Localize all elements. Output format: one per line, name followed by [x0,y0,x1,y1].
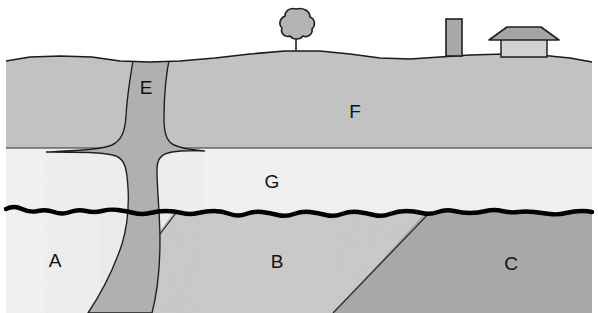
cropped-caption-text [0,0,598,2]
unit-f-body [0,40,598,160]
cross-section-diagram: A B C E F G [0,0,598,313]
tower-body [446,19,462,56]
unit-label-b: B [271,251,284,272]
tree-icon [280,8,315,52]
tower-icon [446,19,462,56]
unit-label-e: E [140,77,153,98]
unit-label-a: A [49,250,62,271]
tree-crown [280,8,315,39]
unit-label-c: C [504,253,518,274]
layer-f-group [0,40,598,160]
house-roof [489,27,559,40]
house-icon [489,27,559,57]
unit-label-f: F [349,101,361,122]
unit-label-g: G [265,171,280,192]
geologic-cross-section-figure: A B C E F G [0,0,598,313]
house-wall [501,39,547,57]
